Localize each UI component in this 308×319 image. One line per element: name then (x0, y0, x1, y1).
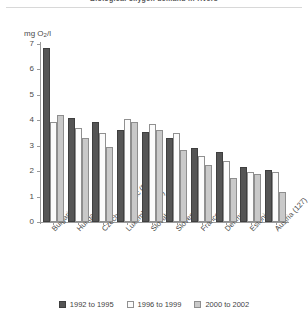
y-axis-tick-label: 1 (20, 193, 34, 201)
bar (216, 152, 223, 222)
chart-legend: 1992 to 19951996 to 19992000 to 2002 (0, 300, 308, 309)
bar (191, 148, 198, 222)
bar-group (240, 44, 261, 222)
bar (254, 174, 261, 222)
y-axis-tick-label: 6 (20, 65, 34, 73)
legend-label: 1992 to 1995 (70, 300, 114, 309)
y-axis-tick-label: 5 (20, 91, 34, 99)
y-axis-tick-mark (37, 197, 40, 198)
bar (230, 178, 237, 223)
bar (240, 167, 247, 222)
y-axis-label: mg O2/l (24, 29, 51, 38)
legend-swatch-icon (59, 301, 66, 308)
y-axis-label-suffix: /l (47, 29, 51, 38)
title-divider (6, 7, 302, 8)
bar-group (142, 44, 163, 222)
y-axis-tick-label: 4 (20, 116, 34, 124)
bar-group (265, 44, 286, 222)
y-axis-tick-label: 3 (20, 142, 34, 150)
bar (149, 124, 156, 222)
bar (75, 128, 82, 222)
bar (50, 122, 57, 222)
legend-label: 2000 to 2002 (205, 300, 249, 309)
bar (57, 115, 64, 222)
y-axis-tick-mark (37, 95, 40, 96)
bar (247, 172, 254, 222)
legend-item[interactable]: 1992 to 1995 (59, 300, 114, 309)
y-axis-tick-mark (37, 146, 40, 147)
y-axis-tick-mark (37, 44, 40, 45)
y-axis-tick-mark (37, 171, 40, 172)
bar-group (43, 44, 64, 222)
legend-label: 1996 to 1999 (138, 300, 182, 309)
bar (99, 133, 106, 222)
bar (156, 130, 163, 222)
chart-figure: Biological oxygen demand in rivers mg O2… (0, 0, 308, 319)
bar (124, 119, 131, 222)
bar (279, 192, 286, 223)
bar-group (92, 44, 113, 222)
chart-title: Biological oxygen demand in rivers (0, 0, 308, 4)
bar (272, 172, 279, 222)
bar-group (216, 44, 237, 222)
bar (68, 118, 75, 222)
bar (43, 48, 50, 222)
bar (82, 138, 89, 222)
y-axis-tick-label: 7 (20, 40, 34, 48)
bar (117, 130, 124, 222)
bar (265, 170, 272, 222)
bar (92, 122, 99, 222)
y-axis-tick-mark (37, 69, 40, 70)
legend-item[interactable]: 2000 to 2002 (194, 300, 249, 309)
bar (173, 133, 180, 222)
bar-group (166, 44, 187, 222)
bar (223, 161, 230, 222)
legend-swatch-icon (127, 301, 134, 308)
bar (180, 150, 187, 222)
bar (198, 156, 205, 222)
legend-item[interactable]: 1996 to 1999 (127, 300, 182, 309)
y-axis-label-prefix: mg O (24, 29, 44, 38)
y-axis-tick-mark (37, 222, 40, 223)
bar-group (191, 44, 212, 222)
y-axis-tick-label: 0 (20, 218, 34, 226)
y-axis-tick-mark (37, 120, 40, 121)
bar-group (68, 44, 89, 222)
legend-swatch-icon (194, 301, 201, 308)
y-axis-tick-label: 2 (20, 167, 34, 175)
bar (106, 147, 113, 222)
bar (166, 138, 173, 222)
bar (131, 122, 138, 222)
bar (142, 132, 149, 222)
bar (205, 165, 212, 222)
bar-group (117, 44, 138, 222)
